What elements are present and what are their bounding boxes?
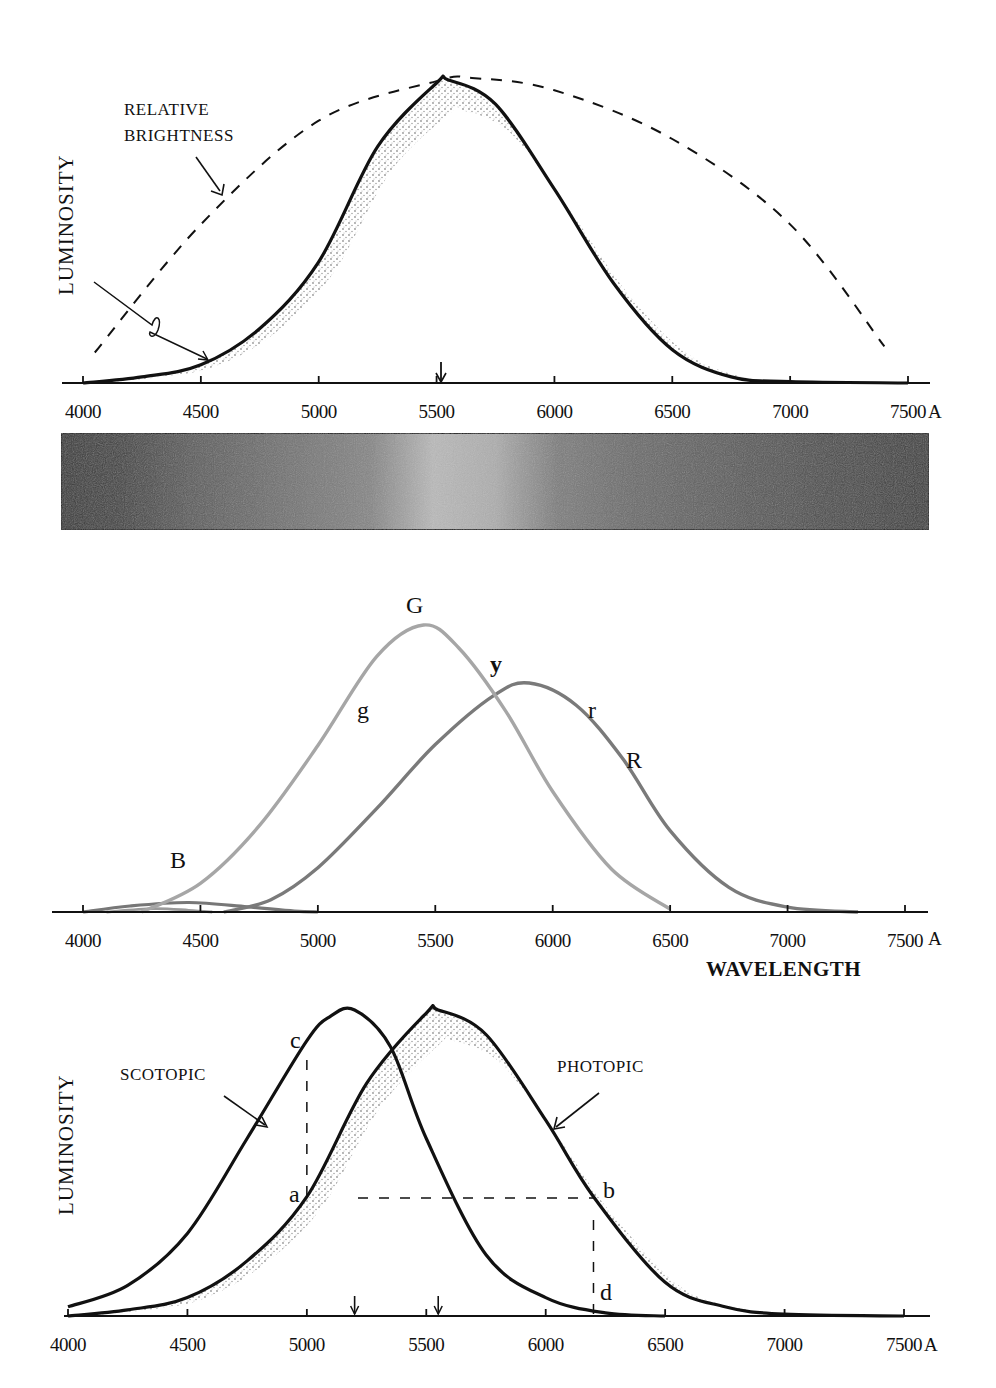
- annotation-photopic: PHOTOPIC: [557, 1057, 644, 1076]
- point-label-d: d: [600, 1279, 612, 1305]
- x-tick-label-5000: 5000: [289, 1334, 325, 1355]
- annotation-relative: RELATIVE: [124, 100, 209, 119]
- series-G-curve: [142, 625, 670, 912]
- x-tick-label-5500: 5500: [408, 1334, 444, 1355]
- x-tick-label-7000: 7000: [772, 401, 808, 422]
- point-label-b: b: [603, 1177, 615, 1203]
- x-tick-label-5500: 5500: [417, 930, 453, 951]
- x-tick-label-4500: 4500: [182, 930, 218, 951]
- peak-marker-arrows: [351, 1296, 443, 1314]
- spectrum-band: [61, 433, 929, 530]
- curve-label-r: r: [588, 697, 596, 723]
- x-tick-label-4000: 4000: [65, 930, 101, 951]
- x-tick-label-7500: 7500: [887, 930, 923, 951]
- x-tick-label-6000: 6000: [536, 401, 572, 422]
- curve-label-G: G: [406, 592, 423, 618]
- x-axis-tick-labels: 40004500500055006000650070007500: [50, 1334, 922, 1355]
- x-tick-label-6500: 6500: [647, 1334, 683, 1355]
- scotopic-curve: [68, 1008, 665, 1316]
- x-axis-tick-labels: 40004500500055006000650070007500: [65, 930, 923, 951]
- relative-brightness-arrow: [196, 157, 224, 195]
- unit-label-angstrom: A: [924, 1334, 938, 1355]
- unit-label-angstrom: A: [928, 928, 942, 949]
- x-tick-label-4000: 4000: [65, 401, 101, 422]
- y-axis-label: LUMINOSITY: [54, 154, 78, 295]
- series-R-curve: [224, 683, 858, 912]
- x-tick-label-5000: 5000: [300, 930, 336, 951]
- x-tick-label-5000: 5000: [301, 401, 337, 422]
- x-tick-label-5500: 5500: [419, 401, 455, 422]
- curve-label-g: g: [357, 697, 369, 723]
- photopic-arrow: [554, 1093, 599, 1129]
- lightning-arrow: [94, 282, 208, 360]
- curve-label-y: y: [490, 651, 502, 677]
- scotopic-arrow: [224, 1096, 267, 1127]
- peak-marker-5200: [351, 1296, 359, 1314]
- x-tick-label-4500: 4500: [169, 1334, 205, 1355]
- curve-label-B: B: [170, 847, 186, 873]
- y-axis-label: LUMINOSITY: [54, 1074, 78, 1215]
- x-tick-label-6500: 6500: [652, 930, 688, 951]
- x-tick-label-6000: 6000: [535, 930, 571, 951]
- spectrum-strip: [61, 433, 929, 530]
- x-tick-label-6500: 6500: [654, 401, 690, 422]
- x-axis-label-wavelength: WAVELENGTH: [706, 957, 861, 981]
- annotation-scotopic: SCOTOPIC: [120, 1065, 206, 1084]
- unit-label-angstrom: A: [928, 401, 942, 422]
- x-tick-label-7000: 7000: [767, 1334, 803, 1355]
- peak-marker-5550: [434, 1296, 442, 1314]
- x-axis-tick-labels: 40004500500055006000650070007500: [65, 401, 926, 422]
- panel-middle-cone-curves: 40004500500055006000650070007500 A WAVEL…: [52, 592, 942, 981]
- x-tick-label-7500: 7500: [890, 401, 926, 422]
- panel-bottom-scotopic-photopic: LUMINOSITY 40004500500055006000650070007…: [50, 1006, 938, 1355]
- point-label-a: a: [289, 1181, 300, 1207]
- photopic-luminosity-curve: [83, 76, 908, 383]
- x-tick-label-7500: 7500: [886, 1334, 922, 1355]
- x-tick-label-4500: 4500: [183, 401, 219, 422]
- annotation-brightness: BRIGHTNESS: [124, 126, 234, 145]
- x-tick-label-4000: 4000: [50, 1334, 86, 1355]
- peak-marker-arrow: [436, 362, 446, 382]
- x-tick-label-6000: 6000: [528, 1334, 564, 1355]
- panel-top-luminosity: LUMINOSITY 40004500500055006000650070007…: [54, 76, 942, 422]
- x-tick-label-7000: 7000: [770, 930, 806, 951]
- curve-label-R: R: [626, 747, 642, 773]
- point-label-c: c: [290, 1027, 301, 1053]
- photopic-shaded-band: [68, 1006, 918, 1316]
- figure-canvas: LUMINOSITY 40004500500055006000650070007…: [0, 0, 996, 1388]
